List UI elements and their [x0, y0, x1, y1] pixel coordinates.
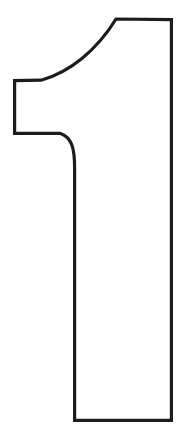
numeral-one-illustration: Outline drawing of the numeral one	[0, 0, 189, 442]
drawing-canvas: Number 1 Outline Outline drawing of the …	[0, 0, 189, 442]
